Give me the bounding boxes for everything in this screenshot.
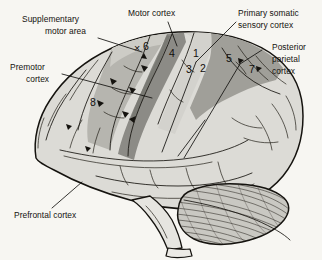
label-premotor-cortex-line2: cortex	[26, 74, 50, 84]
brodmann-area-4: 4	[169, 47, 175, 59]
label-premotor-cortex-line1: Premotor	[10, 62, 45, 72]
brodmann-area-2: 2	[200, 62, 206, 74]
label-supplementary-motor-area-line2: motor area	[45, 26, 86, 36]
leader-prefrontal-cortex	[52, 182, 82, 208]
medulla	[166, 248, 192, 258]
brodmann-area-7: 7	[249, 63, 255, 75]
label-motor-cortex: Motor cortex	[128, 8, 176, 18]
label-posterior-parietal-cortex-line3: cortex	[272, 66, 296, 76]
cerebellum-outline	[178, 184, 289, 245]
brodmann-area-1: 1	[193, 47, 199, 59]
label-prefrontal-cortex: Prefrontal cortex	[14, 210, 77, 220]
sma-cross-mark: ×	[134, 42, 140, 54]
brodmann-area-5: 5	[226, 52, 232, 64]
brain-diagram: Supplementary motor area Premotor cortex…	[0, 0, 322, 260]
label-supplementary-motor-area-line1: Supplementary	[22, 14, 80, 24]
brodmann-area-8: 8	[90, 96, 96, 108]
brodmann-area-3: 3	[186, 63, 192, 75]
label-primary-sensory-cortex-line1: Primary somatic	[238, 8, 299, 18]
brodmann-area-6: 6	[143, 40, 149, 52]
label-posterior-parietal-cortex-line2: parietal	[272, 54, 300, 64]
label-primary-sensory-cortex-line2: sensory cortex	[238, 20, 294, 30]
label-posterior-parietal-cortex-line1: Posterior	[272, 42, 306, 52]
cerebellum	[176, 183, 292, 258]
